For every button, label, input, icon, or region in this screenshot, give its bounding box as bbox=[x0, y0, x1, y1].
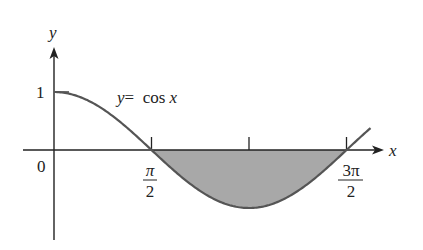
shaded-region bbox=[152, 150, 347, 208]
tick-label-pi-over-2-den: 2 bbox=[146, 182, 155, 201]
function-label: y= cos x bbox=[115, 88, 178, 107]
function-label-x: x bbox=[169, 88, 178, 107]
tick-label-pi-over-2-num: π bbox=[146, 161, 155, 180]
y-tick-label-1: 1 bbox=[36, 83, 45, 102]
function-label-y: y bbox=[115, 88, 125, 107]
y-axis-label: y bbox=[47, 23, 57, 42]
graph: y x 1 0 y= cos x π 2 3π 2 bbox=[0, 0, 423, 250]
origin-label: 0 bbox=[37, 157, 46, 176]
tick-label-3pi-over-2-den: 2 bbox=[347, 182, 356, 201]
tick-label-3pi-over-2-num: 3π bbox=[342, 161, 360, 180]
function-label-eq: = cos bbox=[125, 88, 170, 107]
x-axis-label: x bbox=[388, 141, 397, 160]
